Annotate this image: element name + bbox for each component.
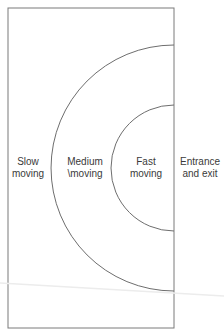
zone-label-line2: moving bbox=[6, 168, 50, 180]
zone-label-entrance-exit: Entrance and exit bbox=[176, 156, 224, 180]
zone-label-line1: Entrance bbox=[176, 156, 224, 168]
zone-label-fast-moving: Fast moving bbox=[122, 156, 170, 180]
zone-label-line1: Fast bbox=[122, 156, 170, 168]
zone-label-line1: Medium bbox=[62, 156, 108, 168]
zone-label-medium-moving: Medium \moving bbox=[62, 156, 108, 180]
zone-label-line1: Slow bbox=[6, 156, 50, 168]
zone-label-line2: \moving bbox=[62, 168, 108, 180]
zone-label-slow-moving: Slow moving bbox=[6, 156, 50, 180]
zone-label-line2: and exit bbox=[176, 168, 224, 180]
scan-artifact-line bbox=[0, 283, 224, 296]
zone-label-line2: moving bbox=[122, 168, 170, 180]
